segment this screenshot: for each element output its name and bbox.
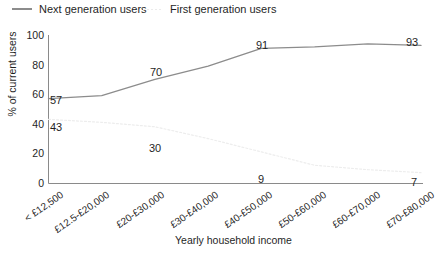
x-axis-title: Yearly household income — [0, 234, 429, 246]
